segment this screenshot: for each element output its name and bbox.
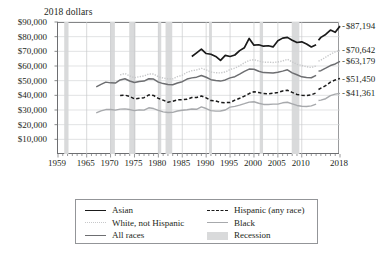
y-axis-label: $30,000 bbox=[18, 105, 47, 115]
legend-item[interactable]: Recession bbox=[207, 229, 304, 242]
series-end-label: -$41,361 bbox=[342, 88, 375, 98]
x-axis-label: 2000 bbox=[244, 158, 262, 168]
series-end-label: -$51,450 bbox=[342, 74, 375, 84]
legend-swatch-solid-dark bbox=[85, 206, 106, 215]
x-axis-ticks bbox=[58, 22, 340, 154]
axis-note: 2018 dollars bbox=[44, 7, 92, 17]
series-end-label: -$70,642 bbox=[342, 45, 375, 55]
x-axis-label: 2018 bbox=[330, 158, 348, 168]
x-axis-label: 1985 bbox=[172, 158, 190, 168]
y-axis-label: $80,000 bbox=[18, 32, 47, 42]
x-axis-label: 1959 bbox=[48, 158, 66, 168]
legend-item[interactable]: All races bbox=[85, 229, 184, 242]
x-axis-label: 1970 bbox=[101, 158, 119, 168]
x-axis-label: 1980 bbox=[148, 158, 166, 168]
income-by-race-line-chart: 2018 dollars $90,000$80,000$70,000$60,00… bbox=[0, 0, 390, 262]
legend-swatch-solid-gray bbox=[207, 218, 228, 227]
plot-area bbox=[57, 22, 339, 154]
x-axis-label: 1995 bbox=[220, 158, 238, 168]
legend-item[interactable]: White, not Hispanic bbox=[85, 217, 184, 230]
legend-column-right: Hispanic (any race)BlackRecession bbox=[207, 204, 304, 242]
y-axis-label: $20,000 bbox=[18, 120, 47, 130]
legend-label: Asian bbox=[112, 205, 133, 215]
legend-label: All races bbox=[112, 230, 144, 240]
legend-item[interactable]: Hispanic (any race) bbox=[207, 204, 304, 217]
x-axis-label: 2010 bbox=[292, 158, 310, 168]
legend-swatch-dotted-light bbox=[85, 218, 106, 227]
legend-label: Black bbox=[234, 218, 255, 228]
legend-column-left: AsianWhite, not HispanicAll races bbox=[85, 204, 184, 242]
legend-item[interactable]: Black bbox=[207, 217, 304, 230]
legend-label: Recession bbox=[234, 230, 271, 240]
y-axis-label: $40,000 bbox=[18, 90, 47, 100]
legend-swatch-band bbox=[207, 232, 228, 240]
legend-label: White, not Hispanic bbox=[112, 218, 184, 228]
x-axis-label: 2005 bbox=[268, 158, 286, 168]
legend-swatch-dashed-dark bbox=[207, 206, 228, 215]
legend-label: Hispanic (any race) bbox=[234, 205, 304, 215]
y-axis-label: $90,000 bbox=[18, 17, 47, 27]
series-end-label: -$87,194 bbox=[342, 21, 375, 31]
x-axis-label: 1975 bbox=[124, 158, 142, 168]
y-axis-label: $60,000 bbox=[18, 61, 47, 71]
x-axis-label: 1965 bbox=[77, 158, 95, 168]
y-axis-label: $50,000 bbox=[18, 76, 47, 86]
legend: AsianWhite, not HispanicAll races Hispan… bbox=[75, 199, 318, 244]
y-axis-label: $70,000 bbox=[18, 46, 47, 56]
series-end-label: -$63,179 bbox=[342, 56, 375, 66]
x-axis-label: 1990 bbox=[196, 158, 214, 168]
y-axis-label: $10,000 bbox=[18, 134, 47, 144]
legend-swatch-solid-medium bbox=[85, 231, 106, 240]
legend-item[interactable]: Asian bbox=[85, 204, 184, 217]
